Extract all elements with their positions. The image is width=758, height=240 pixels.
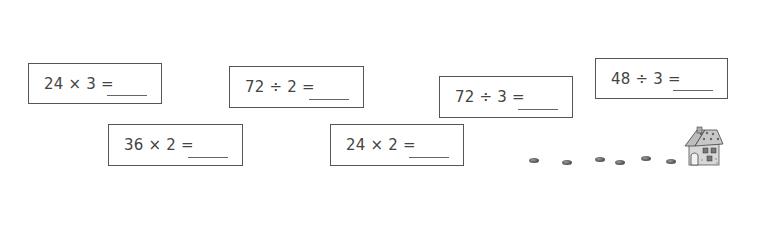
problem-expression: 24 × 2 = bbox=[346, 136, 416, 154]
problem-box-6: 48 ÷ 3 = bbox=[595, 58, 728, 99]
gingerbread-house-icon bbox=[683, 126, 725, 166]
answer-blank[interactable] bbox=[188, 157, 228, 158]
problem-expression: 36 × 2 = bbox=[124, 136, 194, 154]
answer-blank[interactable] bbox=[673, 90, 713, 91]
stepping-stone-icon bbox=[615, 160, 625, 165]
problem-expression: 72 ÷ 3 = bbox=[455, 88, 525, 106]
problem-expression: 48 ÷ 3 = bbox=[611, 70, 681, 88]
problem-box-2: 36 × 2 = bbox=[108, 124, 243, 166]
stepping-stone-icon bbox=[641, 156, 651, 161]
answer-blank[interactable] bbox=[518, 109, 558, 110]
stepping-stone-icon bbox=[595, 157, 605, 162]
answer-blank[interactable] bbox=[309, 99, 349, 100]
stepping-stone-icon bbox=[666, 159, 676, 164]
problem-box-1: 24 × 3 = bbox=[28, 63, 162, 104]
problem-expression: 24 × 3 = bbox=[44, 75, 114, 93]
problem-box-3: 72 ÷ 2 = bbox=[229, 66, 364, 108]
stepping-stone-icon bbox=[529, 158, 539, 163]
answer-blank[interactable] bbox=[107, 95, 147, 96]
answer-blank[interactable] bbox=[409, 157, 449, 158]
problem-expression: 72 ÷ 2 = bbox=[245, 78, 315, 96]
problem-box-4: 24 × 2 = bbox=[330, 124, 464, 166]
problem-box-5: 72 ÷ 3 = bbox=[439, 76, 573, 118]
stepping-stone-icon bbox=[562, 160, 572, 165]
